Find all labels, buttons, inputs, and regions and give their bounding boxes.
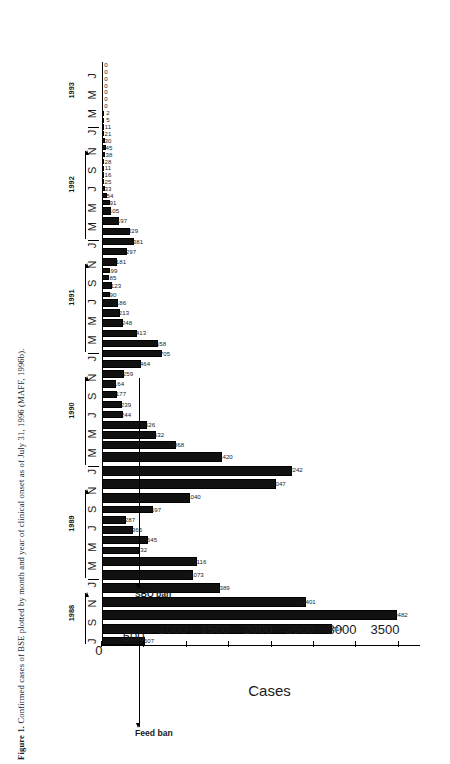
bar (102, 506, 153, 514)
bar-slot: 90 (102, 291, 420, 298)
bar-value-label: 16 (105, 172, 111, 179)
month-tick: N (80, 147, 98, 156)
bar-value-label: 2401 (306, 595, 312, 609)
bar-slot: 21 (102, 130, 420, 137)
bar-slot: 2242 (102, 464, 420, 478)
month-tick (80, 62, 98, 71)
bar (102, 493, 190, 503)
year-label: 1989 (67, 515, 76, 531)
month-tick (80, 401, 98, 410)
month-tick-label: J (86, 356, 98, 362)
bar-value-label: 381 (135, 236, 141, 246)
bar-slot: 0 (102, 82, 420, 89)
bar (102, 309, 120, 317)
bar-value-label: 164 (116, 379, 122, 389)
month-tick: M (80, 448, 98, 457)
month-tick (80, 213, 98, 222)
month-tick: M (80, 316, 98, 325)
month-tick-label: J (86, 130, 98, 136)
bar (102, 330, 137, 338)
bar-slot: 259 (102, 369, 420, 379)
bar-value-label: 85 (110, 274, 116, 281)
bar-value-label: 38 (106, 151, 112, 158)
month-tick: J (80, 580, 98, 589)
bar-slot: 0 (102, 96, 420, 103)
bar-slot: 0 (102, 76, 420, 83)
bar-slot: 1420 (102, 450, 420, 464)
month-tick: M (80, 335, 98, 344)
bar-slot: 464 (102, 359, 420, 369)
year-span-arrow (85, 151, 86, 239)
bar (102, 340, 158, 348)
plot-area: 5072714348224011389107311164325453652875… (102, 62, 420, 646)
bar-slot: 54 (102, 192, 420, 199)
bar-value-label: 11 (105, 165, 111, 171)
bar-slot: 329 (102, 226, 420, 236)
month-tick-label: N (86, 600, 98, 608)
bar-value-label: 287 (127, 515, 133, 525)
bar-slot: 658 (102, 338, 420, 348)
year-label: 1990 (67, 402, 76, 418)
annotation-label: SBO ban (135, 589, 171, 599)
month-tick: N (80, 486, 98, 495)
bar-value-label: 239 (123, 399, 129, 409)
bar (102, 360, 141, 368)
month-tick: M (80, 90, 98, 99)
bar-value-label: 413 (138, 328, 144, 338)
month-tick: S (80, 505, 98, 514)
month-tick (80, 363, 98, 372)
bar-slot: 239 (102, 399, 420, 409)
bar (102, 248, 127, 256)
month-tick (80, 81, 98, 90)
bar-slot: 99 (102, 267, 420, 274)
bar-slot: 33 (102, 185, 420, 192)
bar-value-label: 1073 (193, 568, 199, 582)
bar-value-label: 1389 (220, 582, 226, 596)
bar (102, 479, 276, 489)
bar-value-label: 123 (113, 281, 119, 291)
bar-value-label: 91 (110, 199, 116, 206)
bar-value-label: 1116 (197, 555, 203, 568)
bar (102, 111, 104, 116)
bar (102, 200, 110, 205)
bar-value-label: 244 (123, 410, 129, 420)
value-axis-title: Cases (248, 682, 291, 699)
month-tick: S (80, 279, 98, 288)
bar-value-label: 2714 (333, 622, 339, 636)
bar-value-label: 11 (105, 124, 111, 130)
month-tick: J (80, 354, 98, 363)
month-tick (80, 307, 98, 316)
bar-slot: 432 (102, 545, 420, 555)
month-tick-label: M (86, 109, 98, 118)
month-tick: S (80, 392, 98, 401)
month-tick: J (80, 128, 98, 137)
month-tick: S (80, 165, 98, 174)
bar-slot: 507 (102, 636, 420, 646)
bar-slot: 186 (102, 298, 420, 308)
bar-slot: 244 (102, 410, 420, 420)
bar-slot: 526 (102, 420, 420, 430)
bar-slot: 123 (102, 281, 420, 291)
bar-slot: 868 (102, 440, 420, 450)
bar-slot: 91 (102, 199, 420, 206)
month-tick (80, 100, 98, 109)
month-tick (80, 250, 98, 259)
bar-slot: 0 (102, 103, 420, 110)
bar-value-label: 432 (139, 545, 145, 555)
bar-value-label: 213 (121, 308, 127, 318)
bar (102, 516, 126, 524)
month-tick (80, 627, 98, 636)
month-tick (80, 269, 98, 278)
bar-value-label: 54 (107, 192, 113, 199)
bar-value-label: 0 (103, 77, 109, 80)
year-separator (88, 466, 99, 467)
bar-slot: 16 (102, 172, 420, 179)
figure-caption-text: Confirmed cases of BSE plotted by month … (16, 348, 26, 725)
month-tick: N (80, 599, 98, 608)
bar-value-label: 2 (105, 112, 111, 115)
bar-slot: 1116 (102, 555, 420, 568)
bar-value-label: 181 (118, 257, 124, 267)
bar-value-label: 3482 (398, 609, 404, 623)
bar-value-label: 5 (105, 118, 111, 121)
bar-value-label: 21 (105, 130, 111, 137)
